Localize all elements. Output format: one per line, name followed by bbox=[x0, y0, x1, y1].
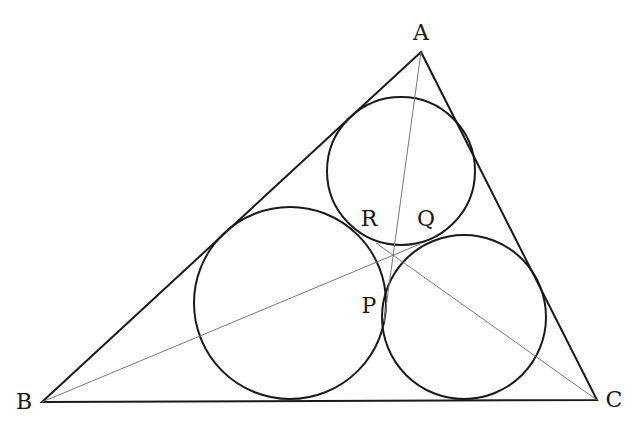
cevian-lines bbox=[42, 52, 597, 402]
label-a: A bbox=[413, 22, 429, 44]
right-circle bbox=[382, 235, 546, 399]
tangent-circles bbox=[194, 97, 546, 399]
top-circle bbox=[327, 97, 475, 245]
label-r: R bbox=[361, 208, 378, 230]
label-q: Q bbox=[417, 208, 435, 230]
label-p: P bbox=[362, 295, 377, 317]
triangle-abc bbox=[42, 52, 597, 402]
cevian-a-p bbox=[384, 52, 421, 322]
diagram-drawing bbox=[0, 0, 634, 437]
left-circle bbox=[194, 207, 386, 399]
label-b: B bbox=[16, 391, 32, 413]
cevian-c-r bbox=[376, 243, 597, 400]
label-c: C bbox=[606, 389, 623, 411]
geometry-diagram: A B C P Q R bbox=[0, 0, 634, 437]
